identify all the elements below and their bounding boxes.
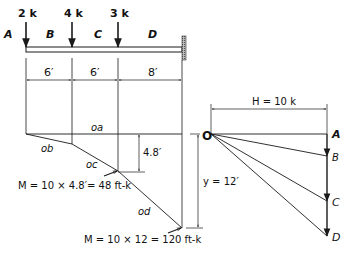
moment-label-wall: M = 10 × 12 = 120 ft-k [84, 234, 201, 245]
segment-label-oc: oc [86, 159, 98, 170]
point-label-b: B [332, 152, 339, 163]
segment-label-oa: oa [91, 122, 103, 133]
offset-dimension [118, 135, 145, 172]
space-label-d: D [148, 28, 157, 41]
y-dimension [186, 134, 203, 228]
diagram-canvas: 2 k 4 k 3 k A B C D 6′ 6′ 8′ oa ob oc od… [0, 0, 347, 254]
load-arrows [26, 22, 118, 47]
fixed-wall-support [182, 36, 186, 60]
pointer-arrow-c [104, 171, 117, 176]
segment-label-od: od [138, 206, 151, 217]
dimension-6ft-1: 6′ [44, 66, 54, 79]
moment-label-c: M = 10 × 4.8′= 48 ft-k [18, 180, 131, 191]
load-label-4k: 4 k [64, 7, 83, 20]
y-label: y = 12′ [203, 176, 239, 187]
pointer-arrow-d [168, 228, 181, 233]
segment-label-ob: ob [41, 143, 53, 154]
h-label: H = 10 k [252, 96, 296, 107]
space-label-c: C [94, 28, 102, 41]
dimension-8ft: 8′ [148, 66, 158, 79]
dimension-6ft-2: 6′ [90, 66, 100, 79]
h-dimension [211, 104, 327, 134]
point-label-c: C [332, 196, 340, 209]
space-label-a: A [3, 28, 13, 41]
point-label-a: A [331, 128, 341, 141]
offset-label: 4.8′ [143, 147, 162, 158]
load-label-2k: 2 k [18, 7, 37, 20]
load-label-3k: 3 k [110, 7, 129, 20]
pole-label: O [202, 129, 212, 143]
space-label-b: B [46, 28, 54, 41]
point-label-d: D [332, 231, 340, 244]
